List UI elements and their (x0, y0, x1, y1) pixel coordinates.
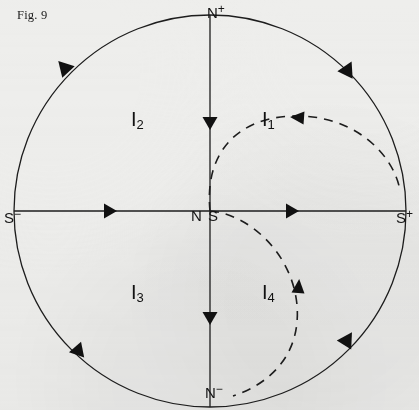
axis-label-north-positive-base: N (207, 4, 218, 21)
region-label-i1: I1 (262, 108, 275, 132)
axis-label-north-positive: N+ (207, 2, 225, 21)
axis-label-south-negative-sign: − (14, 207, 21, 221)
axis-label-north-negative-base: N (205, 384, 216, 401)
dashed-arrow-upper-left-pointing (290, 111, 305, 125)
diagram-canvas (0, 0, 419, 410)
axis-label-north-negative-sign: − (216, 382, 223, 396)
axis-label-north-positive-sign: + (218, 2, 225, 16)
region-label-i2: I2 (131, 108, 144, 132)
dashed-curve-lower-arc (210, 211, 297, 396)
axis-label-south-negative-base: S (4, 209, 14, 226)
region-label-i3: I3 (131, 281, 144, 305)
axis-label-south-positive-base: S (396, 209, 406, 226)
axis-label-center-left: N (191, 207, 202, 224)
axis-label-north-negative: N− (205, 382, 223, 401)
circle-arrow-upper-right (337, 58, 359, 79)
figure-9-diagram: Fig. 9 N+ N− S− S+ N S I1 I2 I3 I4 (0, 0, 419, 410)
axis-arrow-upper-half-down (203, 117, 218, 130)
axis-arrow-left-half-right (104, 204, 117, 219)
axis-label-center-right: S (208, 207, 218, 224)
region-label-i4: I4 (262, 281, 275, 305)
region-label-i2-subscript: 2 (137, 117, 144, 132)
circle-arrow-lower-left (69, 342, 90, 363)
region-label-i3-subscript: 3 (137, 290, 144, 305)
axis-arrow-right-half-right (286, 204, 299, 219)
circle-arrow-upper-left (52, 55, 75, 78)
circle-arrow-lower-right (337, 328, 359, 350)
axis-label-south-positive: S+ (396, 207, 413, 226)
dashed-curve-upper-arc (209, 116, 400, 211)
axis-label-south-negative: S− (4, 207, 21, 226)
axis-label-south-positive-sign: + (406, 207, 413, 221)
axis-arrow-lower-half-down (203, 312, 218, 325)
figure-caption: Fig. 9 (17, 8, 47, 23)
region-label-i4-subscript: 4 (268, 290, 275, 305)
region-label-i1-subscript: 1 (268, 117, 275, 132)
